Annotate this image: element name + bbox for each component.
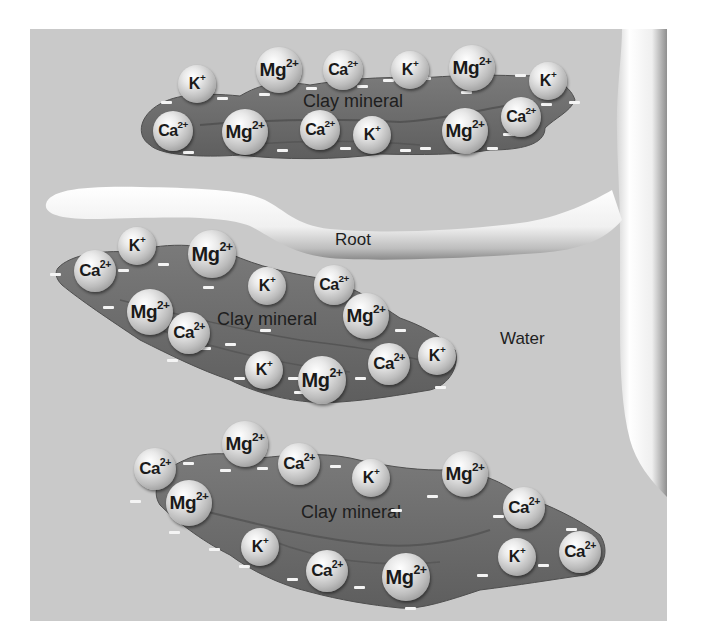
clay-mineral-label-3: Clay mineral (301, 502, 401, 523)
negative-charge-mark (354, 586, 365, 589)
ion-symbol: K+ (189, 75, 205, 93)
ion-k: K+ (241, 528, 279, 566)
ion-k: K+ (248, 267, 286, 305)
negative-charge-mark (357, 85, 368, 88)
negative-charge-mark (183, 462, 194, 465)
ion-charge: + (267, 358, 272, 369)
ion-mg: Mg2+ (343, 293, 389, 339)
ion-ca: Ca2+ (134, 448, 176, 490)
clay-mineral-label-1: Clay mineral (303, 91, 403, 112)
ion-charge: 2+ (373, 302, 385, 315)
ion-mg: Mg2+ (442, 451, 488, 497)
ion-charge: 2+ (304, 451, 315, 463)
ion-charge: 2+ (178, 119, 188, 130)
ion-charge: 2+ (194, 320, 205, 332)
ion-symbol: Ca2+ (283, 454, 315, 474)
ion-symbol: Ca2+ (311, 561, 343, 581)
ion-charge: + (520, 545, 525, 556)
ion-charge: 2+ (472, 117, 484, 130)
ion-k: K+ (391, 51, 429, 89)
ion-symbol: Ca2+ (506, 108, 536, 126)
negative-charge-mark (435, 386, 446, 389)
negative-charge-mark (169, 531, 180, 534)
ion-ca: Ca2+ (153, 111, 193, 151)
ion-k: K+ (118, 227, 156, 265)
ion-mg: Mg2+ (382, 553, 430, 601)
clay-mineral-label-2: Clay mineral (217, 309, 317, 330)
ion-k: K+ (498, 538, 536, 576)
ion-ca: Ca2+ (74, 250, 116, 292)
negative-charge-mark (477, 574, 488, 577)
ion-ca: Ca2+ (368, 343, 410, 385)
ion-symbol: K+ (129, 237, 145, 255)
negative-charge-mark (330, 465, 341, 468)
ion-ca: Ca2+ (300, 110, 340, 150)
ion-ca: Ca2+ (278, 443, 320, 485)
negative-charge-mark (541, 103, 552, 106)
root-vertical (617, 29, 667, 497)
negative-charge-mark (515, 74, 526, 77)
ion-charge: 2+ (332, 558, 343, 570)
ion-charge: 2+ (157, 298, 169, 311)
negative-charge-mark (234, 377, 245, 380)
ion-charge: + (200, 72, 205, 83)
ion-charge: + (140, 234, 145, 245)
ion-symbol: K+ (509, 548, 525, 566)
ion-symbol: Ca2+ (564, 542, 596, 562)
ion-symbol: Ca2+ (173, 323, 205, 343)
ion-charge: 2+ (196, 489, 208, 502)
ion-ca: Ca2+ (314, 265, 354, 305)
negative-charge-mark (420, 147, 431, 150)
ion-symbol: Ca2+ (319, 276, 349, 294)
ion-ca: Ca2+ (559, 531, 601, 573)
ion-ca: Ca2+ (323, 50, 363, 90)
ion-charge: 2+ (526, 105, 536, 116)
root-label: Root (335, 230, 371, 250)
ion-mg: Mg2+ (442, 108, 488, 154)
ion-symbol: Mg2+ (446, 120, 485, 142)
ion-symbol: Ca2+ (305, 121, 335, 139)
ion-symbol: K+ (402, 61, 418, 79)
negative-charge-mark (461, 91, 472, 94)
negative-charge-mark (287, 578, 298, 581)
ion-charge: 2+ (252, 118, 264, 131)
ion-mg: Mg2+ (166, 480, 212, 526)
negative-charge-mark (118, 269, 129, 272)
ion-charge: + (263, 535, 268, 546)
ion-charge: 2+ (348, 58, 358, 69)
negative-charge-mark (239, 565, 250, 568)
ion-symbol: K+ (429, 347, 445, 365)
ion-charge: + (270, 274, 275, 285)
ion-charge: 2+ (394, 351, 405, 363)
ion-ca: Ca2+ (503, 487, 545, 529)
ion-k: K+ (352, 459, 390, 497)
negative-charge-mark (538, 564, 549, 567)
ion-charge: 2+ (329, 366, 342, 380)
ion-k: K+ (529, 62, 567, 100)
ion-mg: Mg2+ (449, 45, 495, 91)
ion-charge: 2+ (286, 56, 298, 69)
ion-mg: Mg2+ (188, 230, 236, 278)
ion-charge: 2+ (339, 273, 349, 284)
negative-charge-mark (427, 495, 438, 498)
negative-charge-mark (225, 343, 236, 346)
ion-symbol: Ca2+ (79, 261, 111, 281)
negative-charge-mark (405, 607, 416, 610)
ion-charge: 2+ (219, 240, 232, 254)
negative-charge-mark (277, 149, 288, 152)
negative-charge-mark (257, 467, 268, 470)
ion-charge: 2+ (413, 563, 426, 577)
negative-charge-mark (217, 97, 228, 100)
ion-k: K+ (353, 116, 391, 154)
negative-charge-mark (259, 93, 270, 96)
ion-mg: Mg2+ (256, 47, 302, 93)
ion-k: K+ (178, 65, 216, 103)
negative-charge-mark (50, 273, 61, 276)
ion-symbol: Mg2+ (453, 57, 492, 79)
ion-mg: Mg2+ (222, 421, 268, 467)
ion-charge: + (374, 466, 379, 477)
ion-symbol: Mg2+ (131, 301, 170, 323)
ion-mg: Mg2+ (298, 356, 346, 404)
ion-mg: Mg2+ (127, 289, 173, 335)
negative-charge-mark (306, 87, 317, 90)
